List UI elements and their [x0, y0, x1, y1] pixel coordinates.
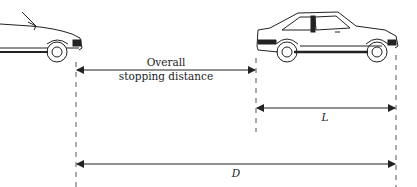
right-car — [257, 12, 398, 62]
overall-label-line2: stopping distance — [119, 70, 213, 82]
total-distance-label: D — [231, 167, 241, 179]
stopping-distance-diagram: Overall stopping distance L D — [0, 0, 417, 187]
left-car-front — [0, 12, 82, 62]
overall-label-line1: Overall — [147, 56, 186, 68]
car-length-label: L — [321, 111, 329, 123]
